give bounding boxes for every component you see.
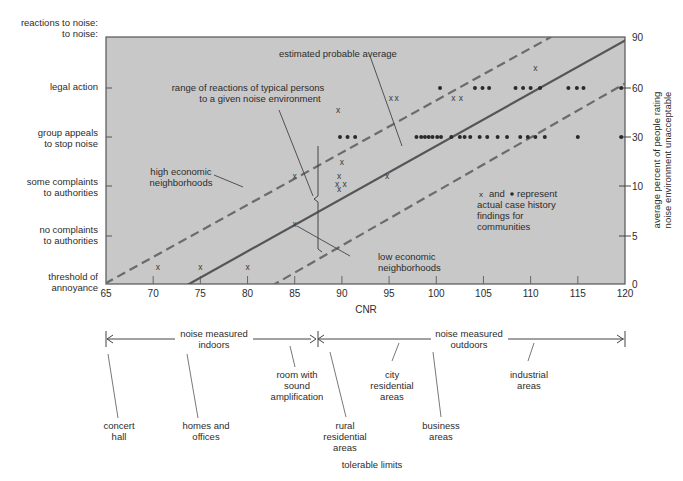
dot-marker [458,135,462,139]
dot-marker [619,135,623,139]
dot-marker [521,86,525,90]
dot-marker [566,86,570,90]
annotation-range-2: to a given noise environment [199,93,321,104]
x-marker: x [459,93,464,103]
annotation-low-econ-1: low economic [378,251,436,262]
level-1-label-2: to authorities [44,235,99,246]
outdoors-label-1: noise measured [435,328,503,339]
env-rural-1: rural [335,420,354,431]
x-tick-label: 70 [148,288,160,299]
legend-x-icon: x [479,190,483,199]
env-concert-hall-2: hall [112,431,127,442]
right-tick-30: 30 [632,132,644,143]
x-marker: x [340,157,345,167]
left-axis-title: reactions to noise: [21,17,98,28]
level-4-label: legal action [50,81,98,92]
dot-marker [468,135,472,139]
dot-marker [414,135,418,139]
svg-text:legal action: legal action [50,81,98,92]
x-tick-label: 115 [570,288,586,299]
legend-dot-icon [510,192,514,196]
legend-represent: represent [517,188,557,199]
svg-text:annoyance: annoyance [52,282,98,293]
right-axis-title-1: average percent of people rating [651,92,662,229]
right-axis-title: average percent of people rating noise e… [651,92,673,229]
x-marker: x [156,262,161,272]
x-marker: x [198,262,203,272]
right-tick-10: 10 [632,181,644,192]
legend-and: and [489,188,505,199]
level-0-label-2: annoyance [52,282,98,293]
dot-marker [575,86,579,90]
right-tick-0: 0 [632,279,638,290]
level-3-label-1: group appeals [38,127,98,138]
left-axis-labels: legal action group appeals to stop noise… [27,81,99,293]
x-marker: x [385,171,390,181]
env-city-3: areas [380,391,404,402]
env-room-3: amplification [271,391,324,402]
env-business-1: business [422,420,460,431]
indoors-label-1: noise measured [180,328,248,339]
x-marker: x [389,93,394,103]
environment-labels: concert hall homes and offices room with… [103,369,548,470]
x-marker: x [245,262,250,272]
dot-marker [576,135,580,139]
svg-text:threshold of: threshold of [48,271,98,282]
level-3-label-2: to stop noise [44,138,98,149]
dot-marker [538,86,542,90]
annotation-high-econ-1: high economic [150,166,212,177]
dot-marker [581,86,585,90]
x-tick-label: 110 [523,288,539,299]
level-2-label-1: some complaints [27,176,99,187]
env-concert-hall-1: concert [103,420,135,431]
dot-marker [543,135,547,139]
dot-marker [518,135,522,139]
env-room-2: sound [284,380,310,391]
x-tick-label: 85 [289,288,301,299]
dot-marker [430,135,434,139]
dot-marker [533,135,537,139]
x-marker: x [337,171,342,181]
dot-marker [619,86,623,90]
x-axis-title: CNR [355,304,377,315]
svg-text:to authorities: to authorities [44,187,99,198]
x-tick-label: 80 [242,288,254,299]
right-tick-5: 5 [632,231,638,242]
x-tick-label: 100 [428,288,445,299]
x-marker: x [337,184,342,194]
legend-line-3: findings for [477,210,523,221]
x-tick-label: 65 [100,288,112,299]
x-marker: x [293,219,298,229]
annotation-range-1: range of reactions of typical persons [172,82,325,93]
dot-marker [487,86,491,90]
dot-marker [505,135,509,139]
level-1-label-1: no complaints [39,224,98,235]
env-rural-2: residential [323,431,366,442]
x-marker: x [293,171,298,181]
svg-text:some complaints: some complaints [27,176,99,187]
dot-marker [473,86,477,90]
env-rural-3: areas [333,442,357,453]
legend-line-2: actual case history [477,199,556,210]
dot-marker [346,135,350,139]
dot-marker [435,135,439,139]
env-homes-2: offices [192,431,220,442]
dot-marker [485,135,489,139]
x-tick-label: 75 [195,288,207,299]
x-tick-label: 90 [336,288,348,299]
dot-marker [449,135,453,139]
level-0-label-1: threshold of [48,271,98,282]
x-marker: x [395,93,400,103]
env-industrial-2: areas [517,380,541,391]
dot-marker [419,135,423,139]
dot-marker [427,135,431,139]
right-tick-90: 90 [632,32,644,43]
dot-marker [353,135,357,139]
env-city-1: city [385,369,400,380]
svg-text:group appeals: group appeals [38,127,98,138]
x-marker: x [336,105,341,115]
x-marker: x [533,63,538,73]
left-axis-title-line1: reactions to noise: [21,17,98,28]
x-marker: x [343,179,348,189]
svg-text:to stop noise: to stop noise [44,138,98,149]
